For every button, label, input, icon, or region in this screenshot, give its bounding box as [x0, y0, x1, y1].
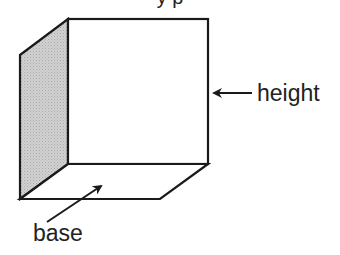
box-diagram: [0, 0, 340, 255]
back-face: [68, 19, 208, 164]
base-label: base: [33, 222, 83, 245]
height-label: height: [257, 82, 320, 105]
